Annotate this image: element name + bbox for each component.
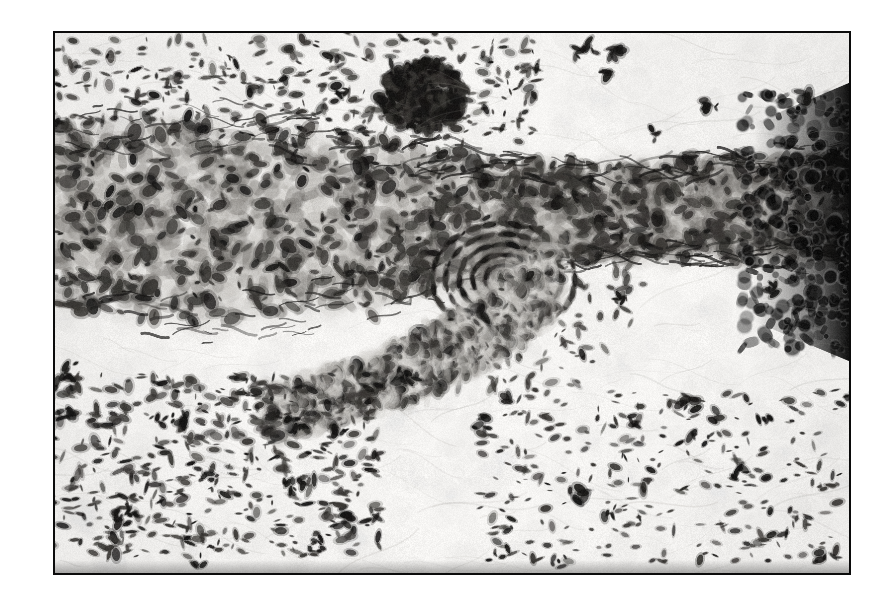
micrograph-image <box>55 33 849 573</box>
figure-root <box>0 0 890 606</box>
micrograph-plate <box>53 31 851 575</box>
